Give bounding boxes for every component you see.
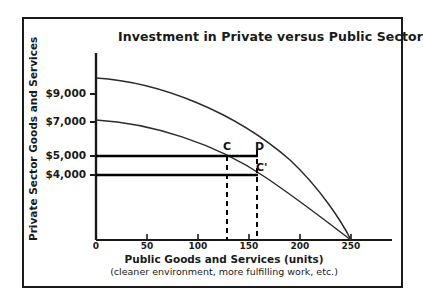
y-tick-label-5000: $5,000 bbox=[30, 149, 86, 161]
x-axis-title: Public Goods and Services (units) bbox=[96, 253, 352, 265]
inner-curve bbox=[96, 120, 351, 240]
y-axis-title: Private Sector Goods and Services bbox=[27, 51, 39, 241]
annotation-point-c: C bbox=[223, 140, 231, 153]
annotation-point-d: D bbox=[255, 140, 264, 153]
y-tick-label-4000: $4,000 bbox=[30, 168, 86, 180]
chart-figure: Investment in Private versus Public Sect… bbox=[0, 0, 423, 305]
x-tick-label-250: 250 bbox=[336, 241, 366, 251]
x-tick-label-200: 200 bbox=[285, 241, 315, 251]
x-axis-subtitle: (cleaner environment, more fulfilling wo… bbox=[76, 266, 372, 277]
x-tick-label-100: 100 bbox=[183, 241, 213, 251]
y-tick-label-7000: $7,000 bbox=[30, 115, 86, 127]
x-tick-label-150: 150 bbox=[234, 241, 264, 251]
outer-curve bbox=[96, 78, 351, 240]
chart-title: Investment in Private versus Public Sect… bbox=[118, 29, 388, 44]
annotation-point-c-prime: C' bbox=[256, 161, 267, 174]
x-tick-label-0: 0 bbox=[81, 241, 111, 251]
y-tick-label-9000: $9,000 bbox=[30, 87, 86, 99]
x-tick-label-50: 50 bbox=[132, 241, 162, 251]
